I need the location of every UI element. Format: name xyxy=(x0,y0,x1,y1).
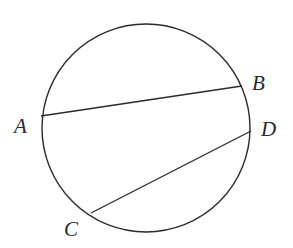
point-label-a: A xyxy=(12,114,27,138)
circle xyxy=(42,24,250,232)
chord-cd xyxy=(91,131,251,213)
point-label-b: B xyxy=(252,71,265,95)
circle-chords-diagram: A B C D xyxy=(0,0,293,248)
point-label-d: D xyxy=(260,117,276,141)
chord-ab xyxy=(41,86,242,116)
point-label-c: C xyxy=(64,217,79,241)
